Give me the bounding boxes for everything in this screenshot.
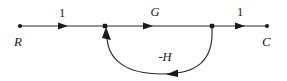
label-gain-unity-right: 1 xyxy=(237,5,243,19)
arrowhead-branch-3 xyxy=(235,23,245,30)
node-input-r xyxy=(18,24,22,28)
label-gain-minus-h: -H xyxy=(158,50,172,64)
label-output-c: C xyxy=(262,34,271,49)
arrowhead-branch-1 xyxy=(58,23,68,30)
label-gain-g: G xyxy=(150,5,159,19)
arrowhead-feedback-into-sum xyxy=(102,27,111,40)
node-output-c xyxy=(265,24,269,28)
flowgraph-canvas: R C 1 G 1 -H xyxy=(0,0,287,81)
arrowhead-feedback-mid xyxy=(166,70,178,78)
label-input-r: R xyxy=(13,34,22,49)
arrowhead-branch-2 xyxy=(143,23,153,30)
node-summing-junction xyxy=(103,24,107,28)
label-gain-unity-left: 1 xyxy=(59,6,65,20)
node-pickoff-point xyxy=(210,24,214,28)
signal-flow-graph-figure: R C 1 G 1 -H xyxy=(0,0,287,81)
